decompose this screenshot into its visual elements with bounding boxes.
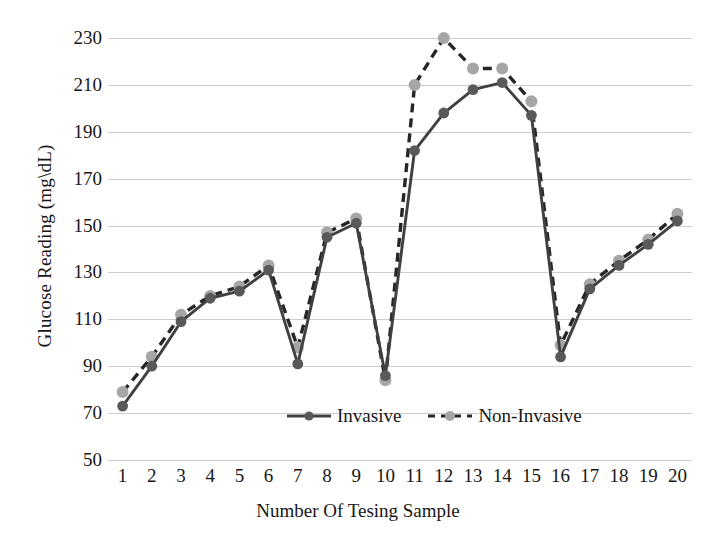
y-tick-label: 50 bbox=[34, 450, 102, 469]
gridline bbox=[108, 460, 692, 461]
data-point-marker bbox=[467, 62, 479, 74]
x-tick-label: 20 bbox=[668, 466, 687, 485]
x-axis-tick-labels: 1234567891011121314151617181920 bbox=[108, 466, 692, 492]
data-point-marker bbox=[117, 401, 128, 412]
x-tick-label: 14 bbox=[493, 466, 512, 485]
x-tick-label: 12 bbox=[434, 466, 453, 485]
y-tick-label: 70 bbox=[34, 403, 102, 422]
y-tick-label: 110 bbox=[34, 309, 102, 328]
data-point-marker bbox=[438, 108, 449, 119]
data-point-marker bbox=[117, 386, 129, 398]
legend-swatch-icon bbox=[286, 409, 332, 423]
y-tick-label: 150 bbox=[34, 216, 102, 235]
series-non-invasive bbox=[117, 32, 684, 398]
plot-area bbox=[108, 38, 692, 460]
data-point-marker bbox=[672, 215, 683, 226]
data-point-marker bbox=[525, 95, 537, 107]
glucose-reading-line-chart: Glucose Reading (mg\dL) 2302101901701501… bbox=[0, 0, 716, 558]
x-tick-label: 3 bbox=[176, 466, 186, 485]
y-axis-tick-labels: 230210190170150130110907050 bbox=[34, 30, 102, 470]
y-tick-label: 190 bbox=[34, 122, 102, 141]
x-tick-label: 2 bbox=[147, 466, 157, 485]
x-tick-label: 15 bbox=[522, 466, 541, 485]
data-point-marker bbox=[614, 260, 625, 271]
legend-swatch-icon bbox=[427, 409, 473, 423]
x-tick-label: 6 bbox=[264, 466, 274, 485]
legend-entry-non-invasive: Non-Invasive bbox=[427, 406, 581, 425]
data-point-marker bbox=[497, 77, 508, 88]
data-point-marker bbox=[438, 32, 450, 44]
data-point-marker bbox=[409, 79, 421, 91]
data-point-marker bbox=[409, 145, 420, 156]
x-tick-label: 16 bbox=[551, 466, 570, 485]
legend-label: Invasive bbox=[337, 406, 401, 425]
x-tick-label: 17 bbox=[580, 466, 599, 485]
x-tick-label: 11 bbox=[405, 466, 423, 485]
series-line bbox=[123, 38, 678, 392]
legend-entry-invasive: Invasive bbox=[286, 406, 401, 425]
y-tick-label: 170 bbox=[34, 169, 102, 188]
data-point-marker bbox=[322, 232, 333, 243]
x-tick-label: 13 bbox=[464, 466, 483, 485]
x-tick-label: 10 bbox=[376, 466, 395, 485]
chart-legend: InvasiveNon-Invasive bbox=[286, 406, 582, 425]
x-tick-label: 9 bbox=[351, 466, 361, 485]
series-layer bbox=[108, 38, 692, 460]
x-tick-label: 19 bbox=[639, 466, 658, 485]
data-point-marker bbox=[496, 62, 508, 74]
x-tick-label: 8 bbox=[322, 466, 332, 485]
y-tick-label: 230 bbox=[34, 28, 102, 47]
x-tick-label: 18 bbox=[610, 466, 629, 485]
data-point-marker bbox=[643, 239, 654, 250]
legend-label: Non-Invasive bbox=[478, 406, 581, 425]
data-point-marker bbox=[205, 293, 216, 304]
data-point-marker bbox=[468, 84, 479, 95]
x-tick-label: 1 bbox=[118, 466, 128, 485]
x-axis-title: Number Of Tesing Sample bbox=[0, 500, 716, 522]
data-point-marker bbox=[234, 286, 245, 297]
y-tick-label: 210 bbox=[34, 75, 102, 94]
x-tick-label: 7 bbox=[293, 466, 303, 485]
data-point-marker bbox=[380, 370, 391, 381]
data-point-marker bbox=[176, 316, 187, 327]
y-tick-label: 90 bbox=[34, 356, 102, 375]
data-point-marker bbox=[146, 361, 157, 372]
data-point-marker bbox=[584, 283, 595, 294]
x-tick-label: 4 bbox=[205, 466, 215, 485]
data-point-marker bbox=[526, 110, 537, 121]
data-point-marker bbox=[351, 218, 362, 229]
x-tick-label: 5 bbox=[235, 466, 245, 485]
data-point-marker bbox=[263, 265, 274, 276]
data-point-marker bbox=[292, 358, 303, 369]
data-point-marker bbox=[555, 351, 566, 362]
y-tick-label: 130 bbox=[34, 262, 102, 281]
